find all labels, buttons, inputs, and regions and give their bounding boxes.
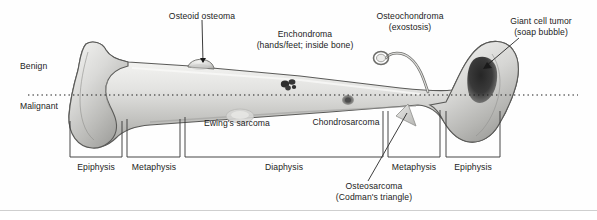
label-malignant: Malignant <box>20 101 58 112</box>
label-osteosarcoma: Osteosarcoma (Codman's triangle) <box>310 181 438 202</box>
label-osteochondroma: Osteochondroma (exostosis) <box>358 11 462 32</box>
label-metaphysis-right-text: Metaphysis <box>392 162 436 172</box>
label-osteoid-osteoma: Osteoid osteoma <box>153 11 251 22</box>
label-giant-cell-tumor-line2: (soap bubble) <box>493 27 589 38</box>
label-osteosarcoma-line2: (Codman's triangle) <box>310 192 438 203</box>
label-epiphysis-left: Epiphysis <box>68 162 124 173</box>
label-enchondroma-line2: (hands/feet; inside bone) <box>233 40 377 51</box>
label-enchondroma-line1: Enchondroma <box>278 29 332 39</box>
lesion-chondrosarcoma <box>342 95 354 105</box>
label-osteochondroma-line1: Osteochondroma <box>376 11 443 21</box>
label-ewings-sarcoma: Ewing's sarcoma <box>192 118 282 129</box>
label-diaphysis-text: Diaphysis <box>265 162 303 172</box>
label-metaphysis-left: Metaphysis <box>124 162 184 173</box>
label-benign: Benign <box>20 61 47 72</box>
leader-osteoid-osteoma <box>202 20 203 62</box>
label-malignant-text: Malignant <box>20 101 58 111</box>
label-osteoid-osteoma-line1: Osteoid osteoma <box>169 11 235 21</box>
label-epiphysis-left-text: Epiphysis <box>77 162 115 172</box>
label-enchondroma: Enchondroma (hands/feet; inside bone) <box>233 29 377 50</box>
label-metaphysis-right: Metaphysis <box>384 162 444 173</box>
label-giant-cell-tumor-line1: Giant cell tumor <box>510 16 572 26</box>
label-metaphysis-left-text: Metaphysis <box>132 162 176 172</box>
label-osteosarcoma-line1: Osteosarcoma <box>346 181 403 191</box>
bracket-metaphysis-right <box>388 110 440 157</box>
label-diaphysis: Diaphysis <box>249 162 319 173</box>
label-osteochondroma-line2: (exostosis) <box>358 22 462 33</box>
bone-tumor-diagram: Osteoid osteoma Enchondroma (hands/feet;… <box>0 0 597 220</box>
label-epiphysis-right-text: Epiphysis <box>454 162 492 172</box>
label-giant-cell-tumor: Giant cell tumor (soap bubble) <box>493 16 589 37</box>
label-ewings-sarcoma-line1: Ewing's sarcoma <box>204 118 270 128</box>
label-chondrosarcoma: Chondrosarcoma <box>303 117 389 128</box>
label-epiphysis-right: Epiphysis <box>445 162 501 173</box>
bottom-border-strip <box>0 210 597 220</box>
label-chondrosarcoma-line1: Chondrosarcoma <box>312 117 379 127</box>
label-benign-text: Benign <box>20 61 47 71</box>
